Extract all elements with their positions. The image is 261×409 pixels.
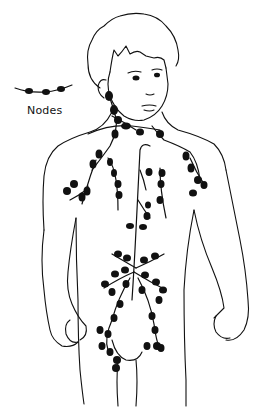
axillary-nodes-right <box>183 152 208 197</box>
lymph-node-diagram: Nodes <box>0 0 261 409</box>
cervical-nodes <box>105 91 164 139</box>
body-illustration <box>0 0 261 409</box>
thoracic-nodes-center <box>126 168 166 230</box>
inguinal-nodes <box>97 300 165 372</box>
axillary-nodes-left <box>63 150 103 202</box>
legend-node-chain-icon <box>15 85 72 95</box>
thoracic-nodes-left <box>107 158 123 199</box>
head-outline <box>88 13 179 120</box>
